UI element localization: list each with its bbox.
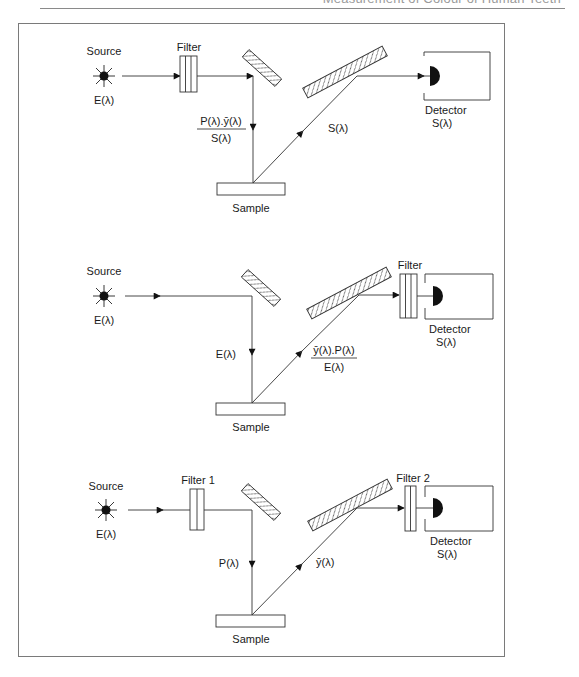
mirror-1 (241, 270, 280, 307)
filter-label: Filter (398, 259, 423, 271)
reflected-beam-label: ȳ(λ) (316, 556, 334, 568)
detector-label: Detector (430, 535, 472, 547)
beam-sample-to-mirror (253, 131, 303, 183)
filter: Filter (177, 41, 202, 92)
incident-beam-label: P(λ) (219, 557, 239, 569)
detector: Detector S(λ) (420, 52, 490, 129)
light-source-star-icon (95, 499, 117, 521)
reflected-beam-label: S(λ) (328, 122, 348, 134)
detector: Detector S(λ) (417, 274, 493, 348)
reflected-beam-fraction: ȳ(λ).P(λ) E(λ) (311, 344, 357, 373)
mirror-2 (308, 479, 393, 531)
beam-sample-to-mirror (252, 564, 302, 615)
detector-label: Detector (429, 323, 471, 335)
detector: Detector S(λ) (416, 486, 493, 560)
light-source: Source E(λ) (87, 45, 122, 106)
source-spectrum-label: E(λ) (94, 94, 114, 106)
detector-sensor-icon (430, 66, 440, 86)
diagram-config-3: Source E(λ) Filter 1 P(λ) Sample ȳ(λ) Fi… (89, 472, 493, 645)
optical-configurations-diagram: Source E(λ) Filter P(λ).ȳ(λ) S(λ) Sample… (0, 0, 579, 677)
fraction-numerator: ȳ(λ).P(λ) (313, 344, 355, 356)
sample: Sample (216, 615, 285, 645)
fraction-denominator: S(λ) (211, 132, 231, 144)
sample-label: Sample (232, 421, 269, 433)
detector-label: Detector (425, 104, 467, 116)
mirror-1 (241, 484, 280, 521)
source-label: Source (87, 45, 122, 57)
detector-sensor-icon (433, 286, 443, 306)
light-source: Source E(λ) (89, 480, 124, 540)
diagram-config-2: Source E(λ) E(λ) Sample ȳ(λ).P(λ) E(λ) F… (87, 259, 493, 433)
light-source: Source E(λ) (87, 265, 122, 326)
filter-1: Filter 1 (181, 474, 215, 530)
filter: Filter (398, 259, 423, 318)
diagram-config-1: Source E(λ) Filter P(λ).ȳ(λ) S(λ) Sample… (87, 41, 490, 214)
incident-beam-fraction: P(λ).ȳ(λ) S(λ) (197, 115, 246, 144)
light-source-star-icon (93, 65, 115, 87)
light-source-star-icon (93, 285, 115, 307)
mirror-2 (303, 46, 388, 98)
sample: Sample (216, 403, 285, 433)
sample: Sample (217, 183, 285, 214)
incident-beam-label: E(λ) (216, 348, 236, 360)
sample-label: Sample (232, 633, 269, 645)
source-spectrum-label: E(λ) (96, 528, 116, 540)
mirror-2 (307, 267, 392, 319)
mirror-1 (242, 50, 281, 87)
filter-label: Filter (177, 41, 202, 53)
detector-response-label: S(λ) (432, 117, 452, 129)
detector-response-label: S(λ) (437, 548, 457, 560)
filter-1-label: Filter 1 (181, 474, 215, 486)
filter-2-label: Filter 2 (396, 472, 430, 484)
detector-sensor-icon (433, 498, 443, 518)
fraction-denominator: E(λ) (324, 361, 344, 373)
source-spectrum-label: E(λ) (94, 314, 114, 326)
source-label: Source (89, 480, 124, 492)
beam-sample-to-mirror (252, 351, 302, 403)
fraction-numerator: P(λ).ȳ(λ) (200, 115, 242, 127)
detector-response-label: S(λ) (436, 336, 456, 348)
source-label: Source (87, 265, 122, 277)
sample-label: Sample (232, 202, 269, 214)
